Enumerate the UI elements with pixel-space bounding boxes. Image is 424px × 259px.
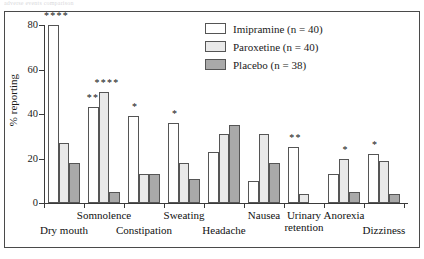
- bar: [109, 192, 120, 203]
- y-axis-tick-label: 0: [6, 198, 38, 208]
- bar: [368, 154, 379, 203]
- x-axis-tick: [284, 204, 285, 208]
- bar: [69, 163, 80, 203]
- y-axis-tick-label-wrap: 0: [0, 198, 38, 208]
- x-axis-tick: [404, 204, 405, 208]
- bar: [48, 25, 59, 203]
- bar: [219, 134, 230, 203]
- legend-swatch-paroxetine: [205, 41, 226, 52]
- figure-caption-fragment: adverse events comparison: [4, 0, 284, 7]
- significance-marker: *: [372, 141, 378, 149]
- y-axis-tick-label-wrap: 40: [0, 109, 38, 119]
- legend-label: Placebo (n = 38): [233, 59, 306, 71]
- x-axis-category-label: Anorexia: [289, 209, 399, 221]
- bar: [379, 161, 390, 203]
- bar: [189, 179, 200, 203]
- y-axis-tick-label-wrap: 60: [0, 65, 38, 75]
- bar: [288, 147, 299, 203]
- legend-swatch-placebo: [205, 59, 226, 70]
- bar: [328, 174, 339, 203]
- bar: [339, 159, 350, 204]
- x-axis-tick: [204, 204, 205, 208]
- bar: [208, 152, 219, 203]
- legend-item: Paroxetine (n = 40): [205, 40, 355, 53]
- x-axis-tick: [324, 204, 325, 208]
- bar: [168, 123, 179, 203]
- x-axis-line: [44, 203, 408, 204]
- legend-label: Imipramine (n = 40): [233, 23, 323, 35]
- bar: [229, 125, 240, 203]
- x-axis-tick: [164, 204, 165, 208]
- significance-marker: ****: [95, 79, 120, 87]
- legend: Imipramine (n = 40)Paroxetine (n = 40)Pl…: [205, 22, 355, 76]
- legend-label: Paroxetine (n = 40): [233, 41, 318, 53]
- x-axis-tick: [244, 204, 245, 208]
- bar: [259, 134, 270, 203]
- legend-item: Imipramine (n = 40): [205, 22, 355, 35]
- bar: [269, 163, 280, 203]
- y-axis-label: % reporting: [7, 40, 19, 160]
- bar: [149, 174, 160, 203]
- legend-swatch-imipramine: [205, 23, 226, 34]
- significance-marker: **: [289, 134, 301, 142]
- bar: [349, 192, 360, 203]
- significance-marker: ****: [44, 12, 69, 20]
- significance-marker: *: [172, 110, 178, 118]
- bar: [389, 194, 400, 203]
- y-axis-tick-label-wrap: 20: [0, 154, 38, 164]
- x-axis-category-label: Dizziness: [329, 224, 424, 236]
- significance-marker: *: [342, 146, 348, 154]
- bar: [248, 181, 259, 203]
- y-axis-tick-label-wrap: 80: [0, 20, 38, 30]
- bar: [179, 163, 190, 203]
- significance-marker: *: [132, 103, 138, 111]
- bar: [139, 174, 150, 203]
- bar: [88, 107, 99, 203]
- x-axis-tick: [84, 204, 85, 208]
- legend-item: Placebo (n = 38): [205, 58, 355, 71]
- y-axis-tick-label: 80: [6, 20, 38, 30]
- bar: [299, 194, 310, 203]
- x-axis-tick: [124, 204, 125, 208]
- x-axis-tick: [44, 204, 45, 208]
- bar: [59, 143, 70, 203]
- x-axis-tick: [364, 204, 365, 208]
- bar: [128, 116, 139, 203]
- figure: adverse events comparison 020406080 % re…: [0, 0, 424, 259]
- bar: [99, 92, 110, 203]
